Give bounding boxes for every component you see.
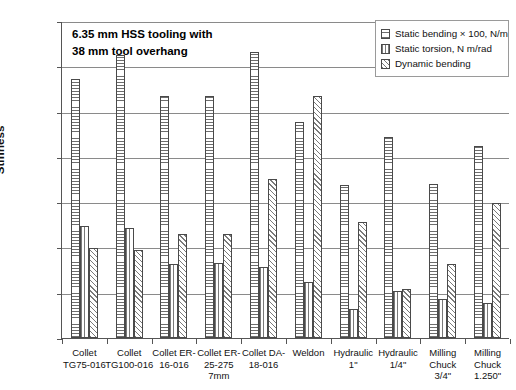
bar-series-3[interactable] xyxy=(223,234,232,338)
legend-swatch-icon xyxy=(381,44,390,54)
x-tick-mark xyxy=(465,339,466,344)
x-tick-mark xyxy=(107,339,108,344)
bar-group xyxy=(152,22,197,338)
bar-series-1[interactable] xyxy=(384,137,393,338)
bar-series-1[interactable] xyxy=(340,185,349,338)
bar-series-3[interactable] xyxy=(402,289,411,338)
bar-series-1[interactable] xyxy=(295,122,304,338)
bar-series-2[interactable] xyxy=(483,303,492,338)
x-tick-mark xyxy=(286,339,287,344)
bar-series-2[interactable] xyxy=(214,263,223,338)
legend-swatch-icon xyxy=(381,29,390,39)
x-tick-mark xyxy=(420,339,421,344)
stiffness-bar-chart: 01000200030004000500060007000ColletTG75-… xyxy=(0,0,516,390)
bar-series-3[interactable] xyxy=(89,248,98,338)
bar-group xyxy=(196,22,241,338)
legend-item[interactable]: Static torsion, N m/rad xyxy=(381,41,504,56)
bar-series-1[interactable] xyxy=(116,55,125,338)
bar-series-2[interactable] xyxy=(304,282,313,338)
annotation-line-2: 38 mm tool overhang xyxy=(72,43,213,60)
bar-series-3[interactable] xyxy=(313,96,322,338)
bar-series-3[interactable] xyxy=(268,179,277,338)
legend-label: Dynamic bending xyxy=(395,58,471,69)
x-tick-mark xyxy=(376,339,377,344)
bar-group xyxy=(331,22,376,338)
legend-label: Static torsion, N m/rad xyxy=(395,43,492,54)
x-tick-mark xyxy=(62,339,63,344)
bar-series-1[interactable] xyxy=(160,96,169,338)
bar-series-2[interactable] xyxy=(80,226,89,338)
legend-label: Static bending × 100, N/m xyxy=(395,28,508,39)
bar-series-3[interactable] xyxy=(178,234,187,338)
x-tick-mark xyxy=(152,339,153,344)
y-axis-title: Stiffness xyxy=(0,126,6,175)
bar-series-1[interactable] xyxy=(205,96,214,338)
x-tick-mark xyxy=(331,339,332,344)
bar-series-2[interactable] xyxy=(393,291,402,338)
bar-group xyxy=(62,22,107,338)
x-tick-mark xyxy=(196,339,197,344)
x-tick-mark xyxy=(510,339,511,344)
bar-series-3[interactable] xyxy=(358,222,367,338)
bar-series-1[interactable] xyxy=(71,79,80,338)
bar-group xyxy=(286,22,331,338)
chart-legend: Static bending × 100, N/mStatic torsion,… xyxy=(375,20,509,77)
bar-series-1[interactable] xyxy=(474,146,483,338)
bar-series-1[interactable] xyxy=(250,52,259,338)
bar-series-2[interactable] xyxy=(169,264,178,338)
bar-series-2[interactable] xyxy=(125,228,134,338)
bar-series-3[interactable] xyxy=(447,264,456,338)
bar-series-3[interactable] xyxy=(492,203,501,338)
legend-item[interactable]: Static bending × 100, N/m xyxy=(381,26,504,41)
bar-group xyxy=(241,22,286,338)
bar-series-1[interactable] xyxy=(429,184,438,338)
annotation-line-1: 6.35 mm HSS tooling with xyxy=(72,26,213,43)
bar-series-2[interactable] xyxy=(438,299,447,338)
legend-item[interactable]: Dynamic bending xyxy=(381,56,504,71)
bar-group xyxy=(107,22,152,338)
x-tick-mark xyxy=(241,339,242,344)
bar-series-2[interactable] xyxy=(259,267,268,338)
bar-series-3[interactable] xyxy=(134,250,143,338)
x-tick-label: MillingChuck1.250" xyxy=(461,347,514,382)
legend-swatch-icon xyxy=(381,59,390,69)
chart-annotation: 6.35 mm HSS tooling with 38 mm tool over… xyxy=(72,26,213,60)
bar-series-2[interactable] xyxy=(349,309,358,338)
